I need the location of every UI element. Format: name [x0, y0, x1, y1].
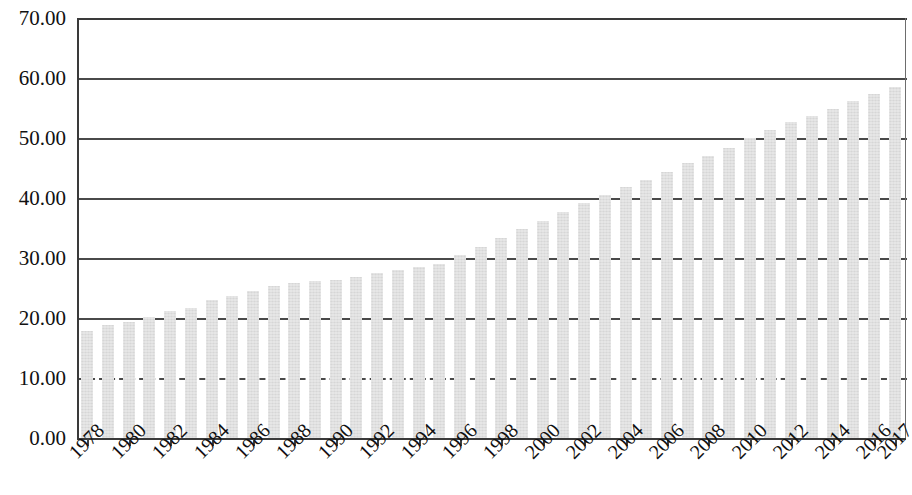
- bar: [785, 122, 797, 438]
- plot-right-border: [905, 18, 906, 438]
- bar: [516, 229, 528, 438]
- y-tick-label: 50.00: [19, 128, 66, 149]
- bar: [102, 325, 114, 438]
- bar: [268, 286, 280, 438]
- bar: [723, 148, 735, 438]
- bar: [288, 283, 300, 438]
- bar: [537, 221, 549, 438]
- bar: [806, 116, 818, 438]
- y-tick-label: 60.00: [19, 68, 66, 89]
- bar: [371, 273, 383, 438]
- y-tick-label: 20.00: [19, 308, 66, 329]
- bar: [433, 264, 445, 438]
- bar: [557, 212, 569, 438]
- bar: [495, 238, 507, 438]
- bar: [599, 195, 611, 438]
- bar: [702, 156, 714, 438]
- bar: [764, 130, 776, 438]
- y-tick-label: 30.00: [19, 248, 66, 269]
- bars-layer: [77, 18, 905, 438]
- bar: [185, 308, 197, 438]
- bar: [847, 101, 859, 438]
- bar-chart: 70.00 60.00 50.00 40.00 30.00 20.00 10.0…: [0, 0, 912, 495]
- bar: [226, 296, 238, 438]
- bar: [413, 267, 425, 438]
- bar: [247, 291, 259, 438]
- y-tick-label: 10.00: [19, 368, 66, 389]
- y-tick-label: 40.00: [19, 188, 66, 209]
- bar: [206, 300, 218, 438]
- bar: [682, 163, 694, 438]
- bar: [578, 203, 590, 438]
- bar: [661, 172, 673, 438]
- bar: [330, 280, 342, 438]
- bar: [868, 94, 880, 438]
- y-axis: 70.00 60.00 50.00 40.00 30.00 20.00 10.0…: [0, 0, 72, 495]
- bar: [640, 180, 652, 438]
- bar: [454, 255, 466, 438]
- bar: [889, 87, 901, 438]
- bar: [620, 187, 632, 438]
- bar: [392, 270, 404, 438]
- bar: [475, 247, 487, 438]
- bar: [827, 109, 839, 438]
- x-axis: 1978198019821984198619881990199219941996…: [0, 440, 912, 495]
- y-tick-label: 70.00: [19, 8, 66, 29]
- bar: [350, 277, 362, 438]
- bar: [143, 317, 155, 438]
- bar: [744, 138, 756, 438]
- bar: [309, 281, 321, 438]
